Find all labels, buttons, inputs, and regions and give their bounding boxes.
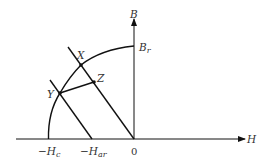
point-x-label: X bbox=[76, 49, 85, 61]
point-x bbox=[79, 63, 83, 67]
origin-label: 0 bbox=[131, 146, 137, 157]
har-label: −Har bbox=[80, 145, 108, 159]
point-y-label: Y bbox=[47, 88, 55, 100]
point-y bbox=[58, 91, 62, 95]
hc-label: −Hc bbox=[38, 145, 61, 159]
point-z-label: Z bbox=[96, 72, 105, 84]
h-axis-label: H bbox=[246, 133, 257, 145]
bh-curve-diagram: B H Br X Z Y −Hc −Har 0 bbox=[0, 0, 266, 162]
b-axis-label: B bbox=[129, 8, 138, 20]
br-label: Br bbox=[138, 41, 152, 55]
point-z bbox=[92, 80, 96, 84]
